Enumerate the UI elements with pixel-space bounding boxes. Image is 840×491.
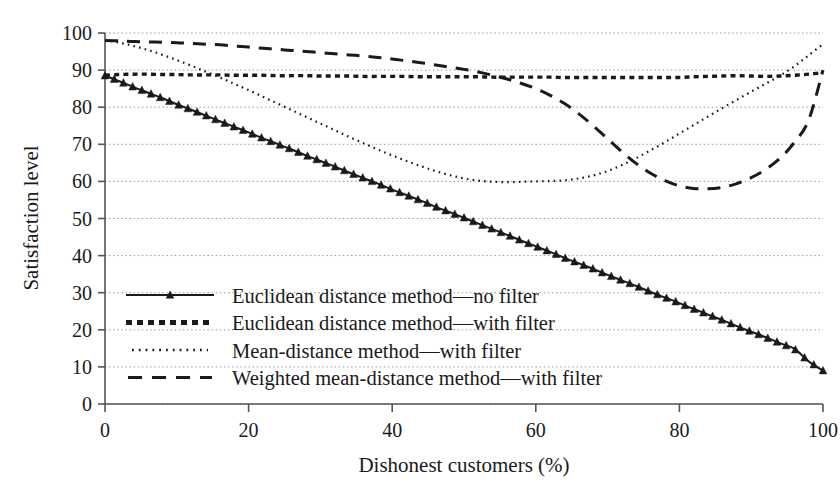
x-tick-label: 0	[100, 419, 110, 441]
x-tick-label: 80	[669, 419, 689, 441]
chart-figure: 0102030405060708090100 020406080100 Dish…	[0, 0, 840, 491]
line-chart: 0102030405060708090100 020406080100 Dish…	[0, 0, 840, 491]
x-axis-title: Dishonest customers (%)	[358, 453, 569, 477]
y-tick-label: 30	[72, 282, 92, 304]
y-tick-label: 70	[72, 133, 92, 155]
y-tick-label: 20	[72, 319, 92, 341]
legend-label: Euclidean distance method—with filter	[232, 312, 555, 334]
x-tick-label: 40	[382, 419, 402, 441]
y-tick-label: 90	[72, 59, 92, 81]
y-axis-title: Satisfaction level	[19, 145, 43, 290]
y-tick-label: 40	[72, 245, 92, 267]
x-tick-label: 20	[239, 419, 259, 441]
y-tick-label: 50	[72, 208, 92, 230]
y-tick-label: 100	[62, 22, 92, 44]
y-tick-label: 10	[72, 356, 92, 378]
legend-label: Mean-distance method—with filter	[232, 340, 521, 362]
y-tick-label: 80	[72, 96, 92, 118]
legend-label: Weighted mean-distance method—with filte…	[232, 367, 602, 390]
x-tick-label: 100	[808, 419, 838, 441]
y-tick-label: 60	[72, 170, 92, 192]
legend-label: Euclidean distance method—no filter	[232, 285, 539, 307]
y-tick-label: 0	[82, 393, 92, 415]
x-tick-label: 60	[526, 419, 546, 441]
